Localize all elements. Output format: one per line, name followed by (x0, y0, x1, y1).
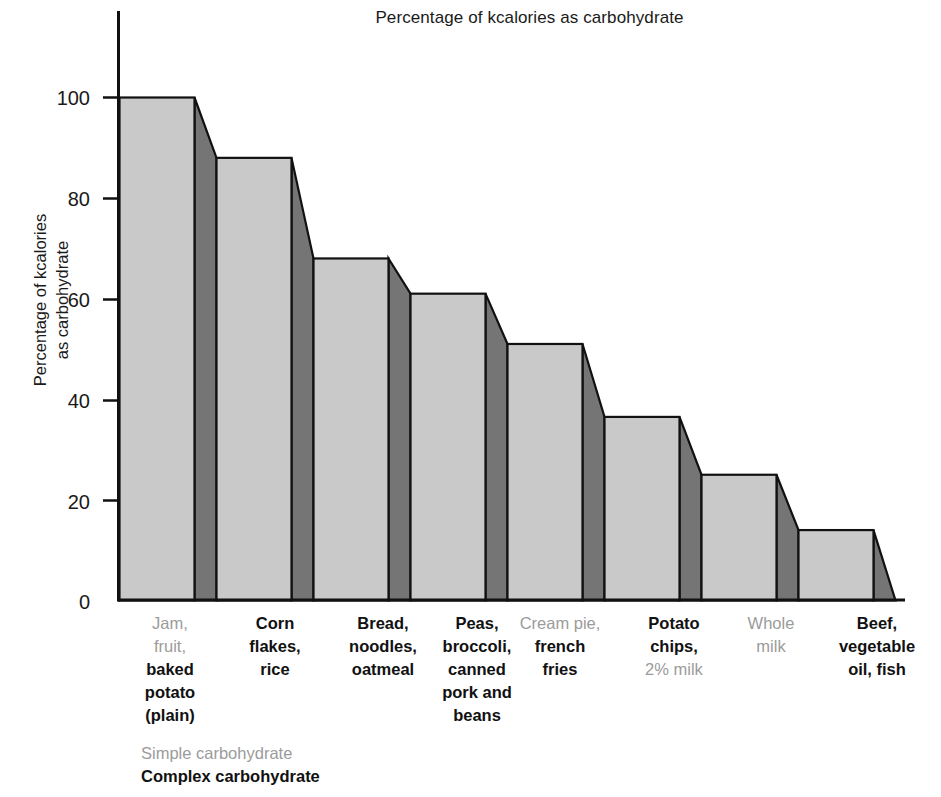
chart-container: Percentage of kcalories as carbohydrate … (0, 0, 941, 797)
bar-side-0 (195, 98, 217, 601)
bar-front-7 (799, 530, 874, 600)
bar-front-3 (411, 294, 486, 601)
category-label-7-line-1: vegetable (817, 635, 937, 658)
bar-front-6 (702, 475, 777, 601)
bar-front-1 (217, 158, 292, 601)
category-label-1-line-0: Corn (223, 612, 327, 635)
category-label-4-line-0: Cream pie, (497, 612, 623, 635)
category-label-5-line-0: Potato (619, 612, 729, 635)
category-label-0: Jam,fruit,bakedpotato(plain) (118, 612, 222, 727)
bar-front-0 (120, 98, 195, 601)
legend: Simple carbohydrate Complex carbohydrate (141, 742, 320, 788)
category-label-5-line-2: 2% milk (619, 658, 729, 681)
category-label-1-line-2: rice (223, 658, 327, 681)
bar-side-2 (389, 258, 411, 600)
category-label-7-line-0: Beef, (817, 612, 937, 635)
bar-side-4 (583, 344, 605, 601)
category-label-1-line-1: flakes, (223, 635, 327, 658)
bar-side-6 (777, 475, 799, 601)
category-label-7-line-2: oil, fish (817, 658, 937, 681)
bar-side-1 (292, 158, 314, 601)
bar-front-4 (508, 344, 583, 601)
category-label-0-line-0: Jam, (118, 612, 222, 635)
bars-group (120, 98, 896, 601)
bar-side-3 (486, 294, 508, 601)
category-label-0-line-1: fruit, (118, 635, 222, 658)
category-label-5-line-1: chips, (619, 635, 729, 658)
category-label-4-line-1: french (497, 635, 623, 658)
category-label-0-line-3: potato (118, 681, 222, 704)
bar-side-7 (874, 530, 896, 600)
category-label-5: Potatochips,2% milk (619, 612, 729, 681)
category-label-6-line-0: Whole (719, 612, 823, 635)
category-label-0-line-4: (plain) (118, 704, 222, 727)
bar-front-5 (605, 417, 680, 601)
category-label-3-line-4: beans (417, 704, 537, 727)
legend-item-simple: Simple carbohydrate (141, 742, 320, 765)
category-label-4: Cream pie,frenchfries (497, 612, 623, 681)
legend-item-complex: Complex carbohydrate (141, 765, 320, 788)
category-label-6: Wholemilk (719, 612, 823, 658)
category-label-1: Cornflakes,rice (223, 612, 327, 681)
bar-front-2 (314, 258, 389, 600)
category-label-0-line-2: baked (118, 658, 222, 681)
category-label-7: Beef,vegetableoil, fish (817, 612, 937, 681)
category-label-3-line-3: pork and (417, 681, 537, 704)
category-label-6-line-1: milk (719, 635, 823, 658)
category-label-4-line-2: fries (497, 658, 623, 681)
bar-side-5 (680, 417, 702, 601)
